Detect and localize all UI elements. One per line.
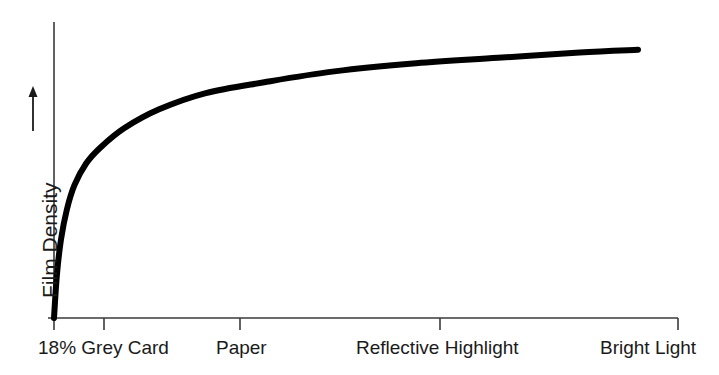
x-tick-label-reflective-highlight: Reflective Highlight	[356, 337, 519, 359]
y-axis-arrow-head-icon	[29, 86, 38, 97]
y-axis-label-container: Film Density	[12, 150, 42, 300]
x-tick-label-paper: Paper	[216, 337, 267, 359]
film-density-chart: Film Density 18% Grey Card Paper Reflect…	[0, 0, 719, 375]
x-tick-label-bright-light: Bright Light	[600, 337, 696, 359]
y-axis-label: Film Density	[38, 182, 62, 298]
film-density-curve	[54, 50, 638, 318]
x-tick-label-grey-card: 18% Grey Card	[38, 337, 169, 359]
chart-canvas	[0, 0, 719, 375]
